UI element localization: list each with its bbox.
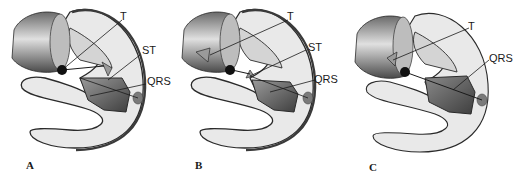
label-qrs: QRS [314,74,338,85]
panel-c: T QRS C [345,0,520,183]
panel-letter-c: C [369,162,377,173]
heart-illustration-a [0,0,175,183]
panel-letter-b: B [195,160,202,171]
electrode-icon [400,67,410,77]
panel-letter-a: A [26,160,34,171]
electrode-icon [225,65,235,75]
label-qrs: QRS [489,53,513,64]
panel-b: T ST QRS B [170,0,345,183]
panel-a: T ST QRS A [0,0,175,183]
label-qrs: QRS [147,76,171,87]
label-t: T [468,21,475,32]
label-t: T [120,11,127,22]
electrode-icon [57,65,67,75]
atrium-cylinder [182,12,240,72]
heart-illustration-b [170,0,345,183]
label-st: ST [308,42,322,53]
heart-illustration-c [345,0,525,183]
label-st: ST [142,45,156,56]
atrium-cylinder [12,12,70,72]
label-t: T [287,11,294,22]
